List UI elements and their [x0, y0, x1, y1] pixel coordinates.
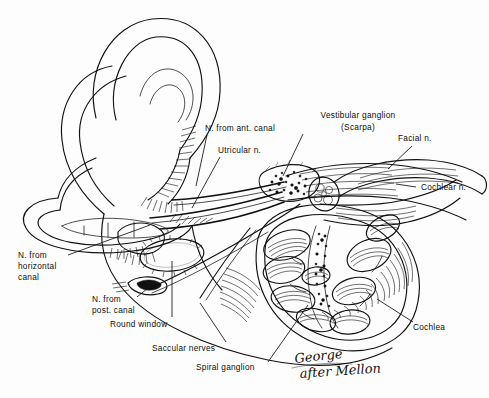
label-n-post-canal-line1: N. from [92, 294, 121, 304]
label-round-window: Round window [110, 319, 168, 329]
label-vestibular-ganglion-line2: (Scarpa) [341, 122, 375, 132]
label-saccular-nerves: Saccular nerves [152, 343, 215, 353]
anatomical-figure: N. from ant. canal Utricular n. Vestibul… [0, 0, 489, 398]
label-n-horizontal-line1: N. from [18, 250, 47, 260]
label-facial-n: Facial n. [398, 133, 432, 143]
label-n-from-ant-canal: N. from ant. canal [205, 123, 275, 133]
label-n-horizontal-line2: horizontal [18, 261, 56, 271]
label-n-horizontal-line3: canal [18, 272, 39, 282]
label-cochlea: Cochlea [413, 322, 445, 332]
canvas-background [0, 0, 489, 398]
label-n-post-canal-line2: post. canal [92, 305, 135, 315]
inner-ear-drawing: N. from ant. canal Utricular n. Vestibul… [0, 0, 489, 398]
label-cochlear-n: Cochlear n. [421, 182, 466, 192]
label-utricular-n: Utricular n. [218, 145, 261, 155]
label-vestibular-ganglion-line1: Vestibular ganglion [321, 110, 396, 120]
label-spiral-ganglion: Spiral ganglion [196, 362, 255, 372]
